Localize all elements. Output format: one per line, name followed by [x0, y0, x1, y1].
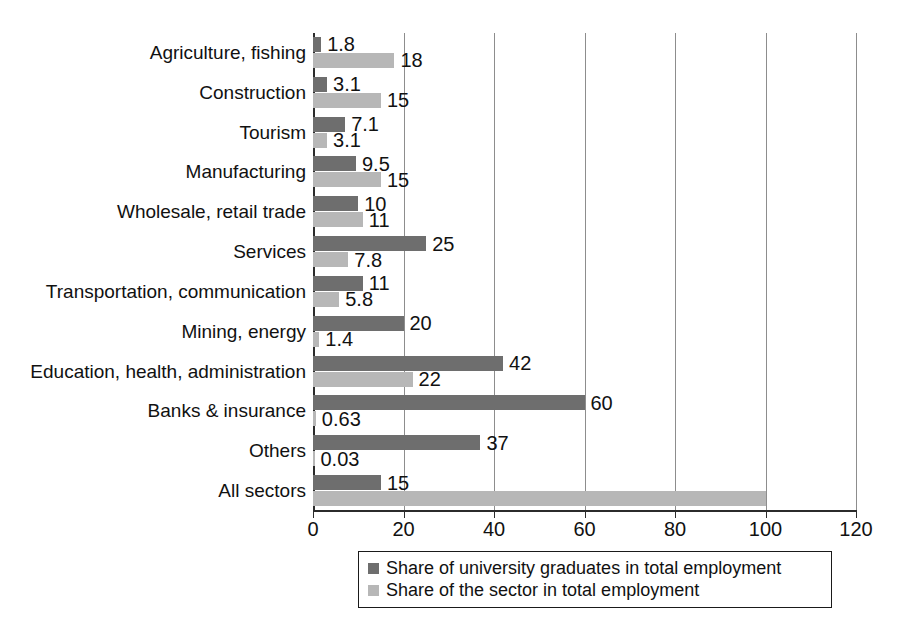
x-axis-tick-label: 20: [392, 517, 414, 541]
category-label: Banks & insurance: [0, 400, 306, 422]
bar-graduates: [313, 475, 381, 490]
bar-sector: [313, 292, 339, 307]
bar-value-label: 25: [432, 234, 454, 254]
category-label: Agriculture, fishing: [0, 42, 306, 64]
bar-value-label: 22: [419, 369, 441, 389]
bar-sector: [313, 491, 766, 506]
bar-value-label: 5.8: [345, 289, 373, 309]
bar-value-label: 15: [387, 90, 409, 110]
bar-value-label: 42: [509, 353, 531, 373]
bar-value-label: 18: [400, 50, 422, 70]
legend-swatch-icon: [368, 563, 379, 574]
bar-sector: [313, 53, 394, 68]
bar-graduates: [313, 77, 327, 92]
bar-value-label: 0.03: [321, 449, 360, 469]
bar-value-label: 3.1: [333, 130, 361, 150]
category-axis-labels: Agriculture, fishingConstructionTourismM…: [0, 33, 306, 511]
legend-item-label: Share of university graduates in total e…: [386, 558, 781, 578]
bar-value-label: 15: [387, 170, 409, 190]
bar-value-label: 9.5: [362, 154, 390, 174]
legend-swatch-icon: [368, 585, 379, 596]
legend-item: Share of the sector in total employment: [368, 579, 822, 601]
chart-plot-area: 1.8183.1157.13.19.5151011257.8115.8201.4…: [313, 33, 856, 511]
x-axis-tick-label: 120: [839, 517, 872, 541]
bar-graduates: [313, 356, 503, 371]
x-axis-tick-label: 0: [307, 517, 318, 541]
bar-value-label: 20: [410, 313, 432, 333]
category-label: Others: [0, 440, 306, 462]
bar-sector: [313, 372, 413, 387]
bar-graduates: [313, 156, 356, 171]
bar-value-label: 1.8: [327, 34, 355, 54]
category-label: Services: [0, 241, 306, 263]
bar-sector: [313, 172, 381, 187]
category-label: Manufacturing: [0, 161, 306, 183]
chart-legend: Share of university graduates in total e…: [358, 551, 832, 608]
bar-sector: [313, 252, 348, 267]
category-label: Tourism: [0, 122, 306, 144]
bar-value-label: 7.8: [354, 250, 382, 270]
category-label: Wholesale, retail trade: [0, 201, 306, 223]
bar-value-label: 37: [486, 433, 508, 453]
x-axis-tick-label: 40: [483, 517, 505, 541]
legend-item-label: Share of the sector in total employment: [386, 580, 699, 600]
category-label: Education, health, administration: [0, 361, 306, 383]
gridline: [856, 33, 857, 511]
bar-value-label: 3.1: [333, 74, 361, 94]
bar-sector: [313, 451, 315, 466]
bar-graduates: [313, 37, 321, 52]
bar-sector: [313, 93, 381, 108]
bar-value-label: 0.63: [322, 409, 361, 429]
gridline: [766, 33, 767, 511]
x-axis-tick-label: 100: [749, 517, 782, 541]
bar-graduates: [313, 196, 358, 211]
bar-value-label: 15: [387, 473, 409, 493]
bar-sector: [313, 332, 319, 347]
bar-sector: [313, 212, 363, 227]
category-label: Mining, energy: [0, 321, 306, 343]
x-axis-tick-label: 60: [573, 517, 595, 541]
bar-sector: [313, 133, 327, 148]
category-label: Construction: [0, 82, 306, 104]
category-label: Transportation, communication: [0, 281, 306, 303]
legend-item: Share of university graduates in total e…: [368, 557, 822, 579]
category-label: All sectors: [0, 480, 306, 502]
x-axis-tick-label: 80: [664, 517, 686, 541]
figure: 1.8183.1157.13.19.5151011257.8115.8201.4…: [0, 0, 908, 630]
gridline: [675, 33, 676, 511]
bar-value-label: 1.4: [325, 329, 353, 349]
figure-caption: [18, 617, 898, 630]
bar-value-label: 60: [591, 393, 613, 413]
bar-value-label: 11: [369, 210, 390, 230]
bar-sector: [313, 411, 316, 426]
gridline: [585, 33, 586, 511]
